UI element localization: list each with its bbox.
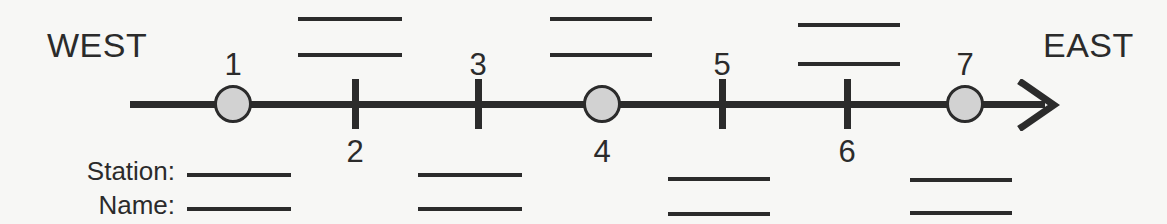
station-number-label: 6 — [827, 136, 867, 167]
blank-answer-rule — [550, 17, 652, 21]
blank-answer-rule — [910, 211, 1012, 215]
blank-answer-rule — [298, 53, 402, 57]
blank-answer-rule — [550, 53, 652, 57]
blank-answer-rule — [668, 177, 770, 181]
blank-answer-rule — [187, 173, 291, 177]
station-number-label: 3 — [458, 49, 498, 80]
blank-answer-rule — [418, 173, 522, 177]
station-marker-tick — [719, 79, 726, 129]
station-number-label: 4 — [582, 136, 622, 167]
arrow-east-icon — [1008, 79, 1060, 131]
blank-answer-rule — [798, 23, 900, 27]
blank-answer-rule — [418, 207, 522, 211]
blank-answer-rule — [910, 178, 1012, 182]
blank-answer-rule — [187, 207, 291, 211]
blank-answer-rule — [798, 62, 900, 66]
east-label: EAST — [1043, 28, 1134, 62]
blank-answer-rule — [298, 17, 402, 21]
transect-diagram: WEST EAST 1234567 Station: Name: — [0, 0, 1167, 224]
station-marker-tick — [352, 79, 359, 129]
station-number-label: 2 — [335, 136, 375, 167]
west-label: WEST — [47, 28, 147, 62]
station-number-label: 5 — [702, 49, 742, 80]
station-marker-circle — [946, 85, 984, 123]
station-marker-circle — [214, 85, 252, 123]
blank-answer-rule — [668, 212, 770, 216]
station-marker-tick — [844, 79, 851, 129]
station-field-label: Station: — [0, 158, 175, 184]
station-marker-circle — [583, 85, 621, 123]
station-marker-tick — [475, 79, 482, 129]
name-field-label: Name: — [0, 192, 175, 218]
station-number-label: 1 — [213, 49, 253, 80]
station-number-label: 7 — [945, 49, 985, 80]
